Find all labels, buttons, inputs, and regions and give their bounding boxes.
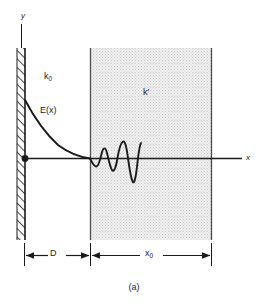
k-prime-region-label: k' xyxy=(143,88,149,97)
figure-caption: (a) xyxy=(0,283,268,292)
shaded-slab-region xyxy=(90,48,212,240)
k0-subscript: 0 xyxy=(49,75,53,82)
dimension-label-D: D xyxy=(50,249,57,258)
origin-dot xyxy=(22,155,29,162)
hatched-wall xyxy=(17,48,25,240)
dimension-arrow-D xyxy=(26,252,90,258)
dimension-label-x0: x0 xyxy=(145,249,153,260)
x-axis-label: x xyxy=(246,154,250,162)
figure-container: y x k0 k' E(x) D x0 (a) xyxy=(0,0,268,307)
field-curve-decay xyxy=(25,100,90,159)
physics-diagram-svg xyxy=(0,0,268,307)
k0-region-label: k0 xyxy=(44,72,52,83)
x0-subscript: 0 xyxy=(150,252,154,259)
y-axis-label: y xyxy=(21,12,25,20)
field-curve-label: E(x) xyxy=(40,106,57,115)
